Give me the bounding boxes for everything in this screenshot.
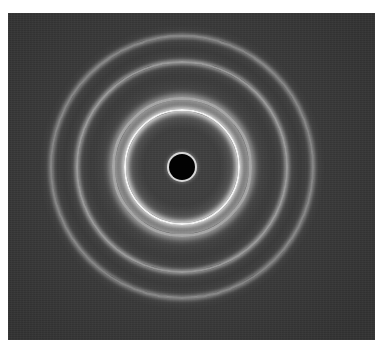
diffraction-image — [8, 13, 375, 340]
beam-stop — [169, 154, 195, 180]
